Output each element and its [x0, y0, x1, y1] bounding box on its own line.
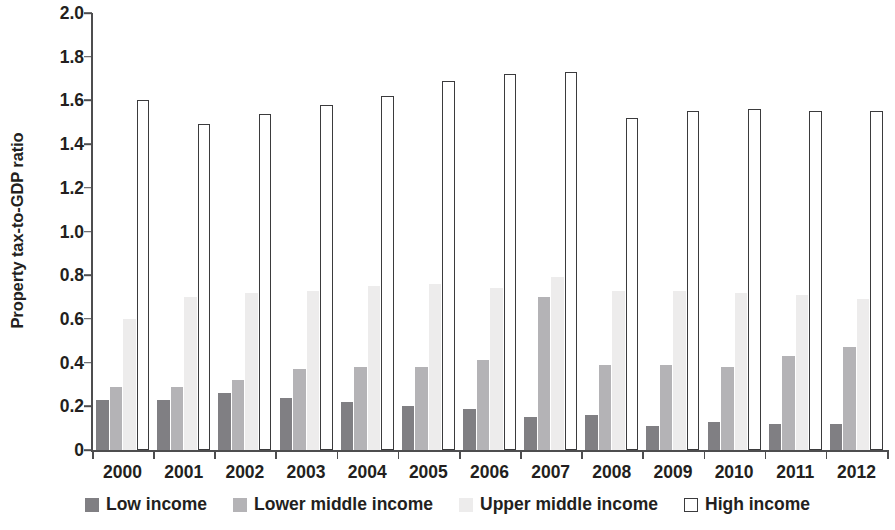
bar: [769, 424, 782, 450]
bar-group: [218, 13, 271, 450]
legend-item[interactable]: Low income: [85, 494, 207, 515]
bar-group: [96, 13, 149, 450]
bar-group: [157, 13, 210, 450]
bar: [368, 286, 381, 450]
bar: [585, 415, 598, 450]
x-axis-tick-mark: [887, 450, 889, 459]
y-axis-title: Property tax-to-GDP ratio: [0, 0, 34, 460]
x-axis-tick-mark: [704, 450, 706, 459]
bar: [646, 426, 659, 450]
x-axis-tick-label: 2003: [287, 462, 326, 483]
x-axis-tick-label: 2007: [531, 462, 570, 483]
bar: [673, 291, 686, 451]
y-axis-title-text: Property tax-to-GDP ratio: [8, 132, 27, 328]
x-axis-tick-mark: [214, 450, 216, 459]
bar: [354, 367, 367, 450]
legend-swatch-icon: [85, 498, 99, 512]
bar: [612, 291, 625, 451]
bar: [843, 347, 856, 450]
x-axis-tick-mark: [581, 450, 583, 459]
bar: [830, 424, 843, 450]
x-axis-tick-label: 2005: [409, 462, 448, 483]
bar-group: [769, 13, 822, 450]
y-axis-tick-label: 0.8: [36, 265, 84, 286]
bar: [504, 74, 517, 450]
y-axis-tick-label: 1.2: [36, 177, 84, 198]
bar-group: [646, 13, 699, 450]
legend-item[interactable]: High income: [684, 494, 810, 515]
x-axis-tick-label: 2011: [776, 462, 814, 483]
x-axis-tick-label: 2008: [592, 462, 631, 483]
bar: [137, 100, 150, 450]
x-axis-tick-label: 2004: [348, 462, 387, 483]
y-axis-tick-label: 1.8: [36, 46, 84, 67]
bar: [463, 409, 476, 451]
bar: [477, 360, 490, 450]
bar: [599, 365, 612, 450]
bar-group: [708, 13, 761, 450]
bar: [735, 293, 748, 450]
bar: [280, 398, 293, 450]
x-axis-tick-mark: [642, 450, 644, 459]
bar: [198, 124, 211, 450]
bar: [110, 387, 123, 450]
bar: [796, 295, 809, 450]
x-axis-tick-label: 2012: [837, 462, 876, 483]
x-axis-tick-label: 2001: [164, 462, 203, 483]
bar-group: [830, 13, 883, 450]
bar: [708, 422, 721, 450]
bar: [415, 367, 428, 450]
bar: [402, 406, 415, 450]
bar: [687, 111, 700, 450]
y-axis-tick-label: 0.4: [36, 352, 84, 373]
property-tax-gdp-bar-chart: Property tax-to-GDP ratio 00.20.40.60.81…: [0, 0, 895, 530]
legend-item[interactable]: Lower middle income: [233, 494, 433, 515]
legend-label: Low income: [106, 494, 207, 515]
bar-group: [402, 13, 455, 450]
x-axis-tick-label: 2002: [225, 462, 264, 483]
bar: [524, 417, 537, 450]
x-axis-tick-mark: [153, 450, 155, 459]
bar: [538, 297, 551, 450]
legend-label: Upper middle income: [480, 494, 658, 515]
x-axis-tick-mark: [337, 450, 339, 459]
legend-swatch-icon: [459, 498, 473, 512]
bar-group: [585, 13, 638, 450]
bar: [307, 291, 320, 451]
bar-group: [524, 13, 577, 450]
y-axis-tick-label: 0.6: [36, 308, 84, 329]
x-axis-tick-label: 2010: [715, 462, 754, 483]
bar: [259, 114, 272, 450]
legend-item[interactable]: Upper middle income: [459, 494, 658, 515]
bar: [123, 319, 136, 450]
bar: [490, 288, 503, 450]
bar-group: [463, 13, 516, 450]
bar: [809, 111, 822, 450]
bar: [293, 369, 306, 450]
bar: [870, 111, 883, 450]
bar: [442, 81, 455, 450]
x-axis-tick-mark: [826, 450, 828, 459]
bar: [184, 297, 197, 450]
bar: [551, 277, 564, 450]
x-axis-tick-mark: [275, 450, 277, 459]
bar: [565, 72, 578, 450]
legend-swatch-icon: [233, 498, 247, 512]
bar: [341, 402, 354, 450]
bar: [232, 380, 245, 450]
plot-area: [92, 13, 887, 450]
bar: [748, 109, 761, 450]
y-axis-tick-label: 2.0: [36, 3, 84, 24]
x-axis-tick-label: 2006: [470, 462, 509, 483]
y-axis-tick-label: 1.0: [36, 221, 84, 242]
x-axis-tick-mark: [520, 450, 522, 459]
bar: [218, 393, 231, 450]
legend-label: Lower middle income: [254, 494, 433, 515]
bar: [782, 356, 795, 450]
y-axis-tick-label: 0: [36, 440, 84, 461]
chart-legend: Low incomeLower middle incomeUpper middl…: [0, 494, 895, 515]
bar: [320, 105, 333, 450]
x-axis-line: [91, 450, 887, 452]
x-axis-tick-mark: [92, 450, 94, 459]
bar: [626, 118, 639, 450]
